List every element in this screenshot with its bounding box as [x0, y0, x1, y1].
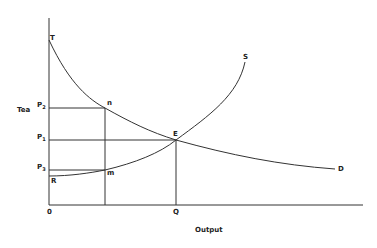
supply-curve [49, 62, 245, 176]
demand-curve [49, 40, 335, 169]
label-Q: Q [173, 208, 179, 216]
supply-demand-diagram: T n E m R S D Q 0 Tea Output P2 P1 P3 [0, 0, 377, 248]
y-axis-label: Tea [17, 106, 31, 114]
label-E: E [173, 130, 178, 138]
label-S: S [243, 53, 248, 61]
label-R: R [51, 177, 57, 185]
label-n: n [107, 99, 112, 107]
label-origin: 0 [47, 208, 52, 216]
label-P1: P1 [37, 133, 46, 142]
label-T: T [50, 34, 55, 42]
label-m: m [107, 169, 114, 177]
label-P3: P3 [37, 163, 46, 172]
x-axis-label: Output [195, 226, 223, 234]
label-P2: P2 [37, 101, 46, 110]
label-D: D [338, 165, 344, 173]
